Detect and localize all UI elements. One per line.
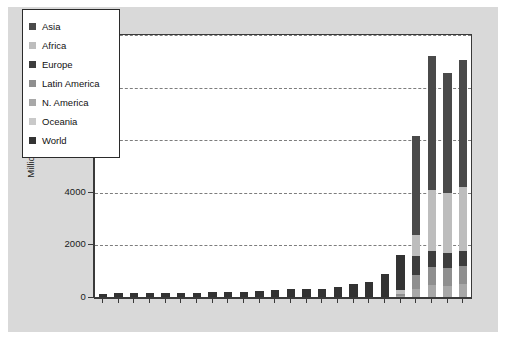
figure: Millions of People 0200040006000800010 0… [0,0,506,339]
legend-label: Oceania [42,116,77,127]
legend-swatch-icon [29,23,36,30]
bar-segment [428,267,437,286]
bar-segment [459,266,468,284]
bar-segment [412,136,421,235]
x-axis-tick [353,298,354,303]
legend: AsiaAfricaEuropeLatin AmericaN. AmericaO… [22,9,120,158]
x-axis-tick [415,298,416,303]
legend-swatch-icon [29,137,36,144]
legend-label: Africa [42,40,66,51]
x-axis-tick [227,298,228,303]
bar-segment [428,190,437,250]
legend-item-asia[interactable]: Asia [29,17,114,36]
legend-label: N. America [42,97,88,108]
x-axis-tick [384,298,385,303]
x-axis-tick [447,298,448,303]
bar-segment [443,286,452,297]
plot-area [94,34,472,299]
x-axis-tick [196,298,197,303]
bar-segment [428,251,437,267]
x-axis-tick [149,298,150,303]
y-axis-tick-label: 4000 [14,186,86,197]
bar-segment [412,256,421,275]
bar-segment [365,282,374,298]
bar-segment [412,275,421,289]
bar-segment [412,235,421,256]
bar-segment [412,289,421,297]
bar-group [412,136,421,298]
y-axis-tick-label: 0 [14,291,86,302]
legend-label: Latin America [42,78,100,89]
bar-segment [459,251,468,267]
x-axis-tick [259,298,260,303]
legend-item-n-america[interactable]: N. America [29,93,114,112]
chart-panel: Millions of People 0200040006000800010 0… [8,7,498,332]
legend-label: Asia [42,21,60,32]
x-axis-tick [400,298,401,303]
bar-group [396,255,405,298]
bar-segment [396,255,405,290]
legend-swatch-icon [29,99,36,106]
x-axis-tick [180,298,181,303]
legend-item-oceania[interactable]: Oceania [29,112,114,131]
legend-swatch-icon [29,61,36,68]
bar-segment [349,284,358,298]
bar-segment [443,193,452,253]
bar-segment [459,60,468,187]
bar-segment [428,56,437,190]
legend-item-africa[interactable]: Africa [29,36,114,55]
x-axis-tick [118,298,119,303]
bar-segment [459,284,468,296]
x-axis-tick [274,298,275,303]
x-axis-tick [243,298,244,303]
legend-item-latin-america[interactable]: Latin America [29,74,114,93]
x-axis-tick [212,298,213,303]
legend-label: Europe [42,59,73,70]
bar-segment [443,253,452,268]
x-axis-tick [102,298,103,303]
x-axis-tick [431,298,432,303]
x-axis-tick [306,298,307,303]
x-axis-tick [462,298,463,303]
legend-item-world[interactable]: World [29,131,114,150]
bar-segment [459,187,468,250]
y-axis-tick-label: 2000 [14,238,86,249]
legend-swatch-icon [29,42,36,49]
bar-group [443,73,452,298]
bar-segment [396,294,405,296]
bar-group [365,282,374,298]
bar-segment [443,268,452,285]
bar-segment [381,274,390,297]
x-axis-tick [321,298,322,303]
x-axis-tick [290,298,291,303]
bar-series-container [95,35,471,298]
legend-label: World [42,135,67,146]
legend-item-europe[interactable]: Europe [29,55,114,74]
x-axis-tick [337,298,338,303]
x-axis-tick [165,298,166,303]
x-axis-tick [368,298,369,303]
bar-segment [428,285,437,297]
x-axis-tick [133,298,134,303]
bar-group [459,60,468,298]
bar-group [349,284,358,298]
bar-group [428,56,437,298]
legend-swatch-icon [29,118,36,125]
bar-segment [443,73,452,193]
bar-group [381,274,390,298]
legend-swatch-icon [29,80,36,87]
bar-segment [396,290,405,293]
